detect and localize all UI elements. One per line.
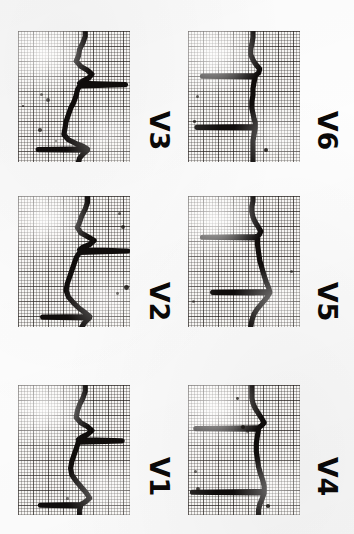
ecg-trace-svg-v1 [18, 385, 130, 515]
ecg-trace-svg-v5 [188, 196, 300, 327]
ecg-trace-halo [38, 31, 125, 162]
scan-speck [192, 300, 195, 303]
ecg-trace-svg-v6 [188, 31, 300, 162]
lead-label-v4: V4 [314, 457, 341, 497]
ecg-trace-svg-v3 [18, 31, 130, 162]
ecg-trace-v5 [203, 196, 270, 327]
lead-label-v2: V2 [146, 282, 173, 322]
ecg-trace-v2 [43, 196, 128, 327]
ecg-panel-v2 [18, 196, 130, 327]
ecg-panel-v6 [188, 31, 300, 162]
lead-label-v1: V1 [146, 457, 173, 497]
scan-speck [246, 430, 249, 433]
ecg-trace-v4 [192, 385, 264, 515]
scan-speck [266, 504, 270, 508]
scan-speck [55, 140, 57, 142]
scan-speck [124, 285, 129, 290]
scan-speck [241, 425, 245, 429]
scan-speck [193, 120, 196, 123]
ecg-panel-v1 [18, 385, 130, 515]
scan-speck [121, 225, 125, 229]
scan-speck [66, 497, 69, 500]
lead-label-v6: V6 [314, 111, 341, 151]
ecg-panel-v5 [188, 196, 300, 327]
ecg-panel-v3 [18, 31, 130, 162]
ecg-panel-v4 [188, 385, 300, 515]
ecg-trace-svg-v4 [188, 385, 300, 515]
ecg-scan-sheet: V3V2V1V6V5V4 [0, 0, 354, 534]
ecg-trace-svg-v2 [18, 196, 130, 327]
scan-speck [116, 292, 119, 295]
ecg-trace-v1 [40, 385, 122, 515]
ecg-trace-halo [43, 196, 128, 327]
scan-speck [118, 212, 121, 215]
scan-speck [38, 128, 42, 132]
lead-label-v5: V5 [314, 282, 341, 322]
scan-speck [236, 397, 239, 400]
lead-label-v3: V3 [146, 111, 173, 151]
